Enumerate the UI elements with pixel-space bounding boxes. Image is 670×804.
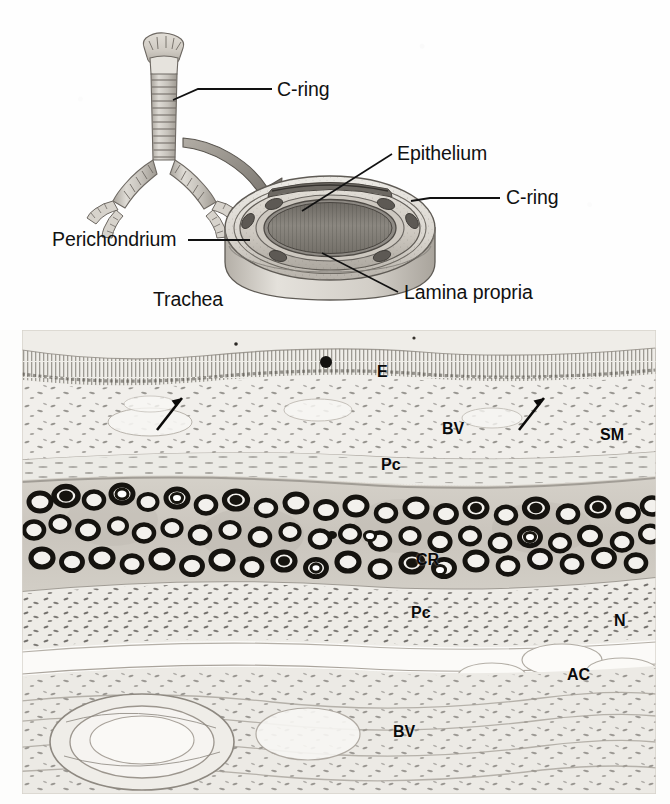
micrograph-label-N: N	[614, 612, 626, 630]
blood-vessel-lower	[50, 694, 234, 790]
micrograph-label-BV-upper: BV	[442, 420, 464, 438]
leader-line-c-ring-cut	[411, 198, 500, 201]
schematic-diagram-panel: C-ring Epithelium C-ring Perichondrium L…	[0, 0, 670, 330]
micrograph-label-CR: CR	[416, 551, 439, 569]
micrograph-label-BV-lower: BV	[393, 723, 415, 741]
micrograph-label-AC: AC	[567, 666, 590, 684]
micrograph-label-SM: SM	[600, 426, 624, 444]
light-micrograph-panel: E BV SM Pc CR Pc N AC BV	[22, 330, 656, 794]
micrograph-label-Pc-lower: Pc	[411, 604, 431, 622]
label-c-ring-whole: C-ring	[277, 78, 330, 101]
label-lamina-propria: Lamina propria	[404, 281, 533, 304]
label-trachea: Trachea	[153, 288, 223, 311]
schematic-diagram-svg	[0, 0, 670, 330]
label-perichondrium: Perichondrium	[52, 228, 176, 251]
leader-line-c-ring-whole	[173, 89, 272, 100]
whole-trachea-illustration	[87, 33, 243, 238]
label-epithelium: Epithelium	[397, 142, 487, 165]
figure-root: C-ring Epithelium C-ring Perichondrium L…	[0, 0, 670, 804]
micrograph-svg	[22, 330, 656, 794]
micrograph-label-E: E	[377, 363, 388, 381]
micrograph-label-Pc-upper: Pc	[381, 456, 401, 474]
label-c-ring-cut: C-ring	[506, 186, 559, 209]
